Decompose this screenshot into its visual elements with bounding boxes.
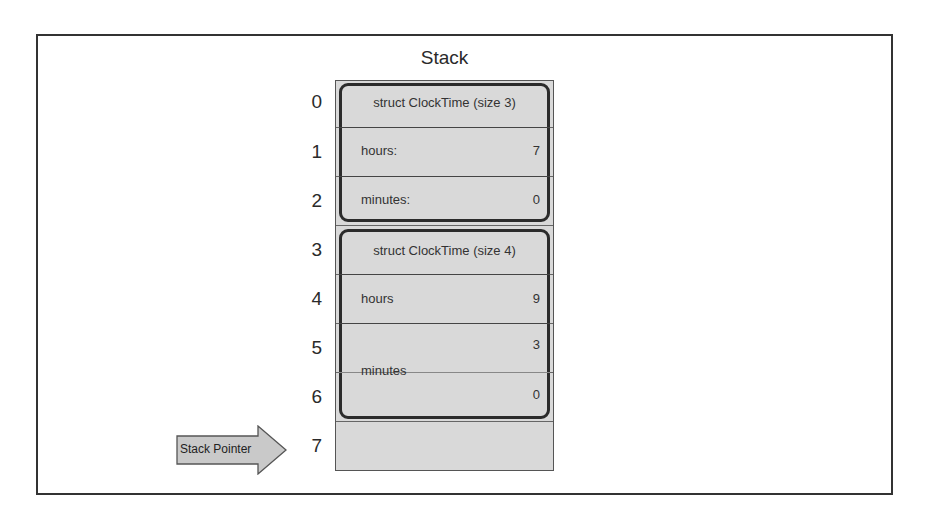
field-value: 0 [533, 192, 540, 207]
field-value-high: 3 [533, 337, 540, 352]
stack-index-4: 4 [300, 288, 322, 310]
struct-1-field-hours: hours: 7 [339, 127, 550, 175]
struct-2-field-hours: hours 9 [339, 274, 550, 322]
stack-index-5: 5 [300, 337, 322, 359]
stack-index-2: 2 [300, 190, 322, 212]
field-label: minutes [361, 363, 407, 378]
stack-index-6: 6 [300, 386, 322, 408]
struct-2-field-minutes: minutes 3 0 [339, 323, 550, 419]
stack-index-7: 7 [300, 435, 322, 457]
field-value-low: 0 [533, 387, 540, 402]
stack-pointer-arrow: Stack Pointer [176, 425, 296, 475]
field-value: 7 [533, 143, 540, 158]
stack-title: Stack [335, 47, 554, 69]
struct-2-header: struct ClockTime (size 4) [339, 243, 550, 258]
stack-cell-7 [336, 422, 553, 470]
field-label: minutes: [361, 192, 410, 207]
field-label: hours [361, 291, 394, 306]
field-label: hours: [361, 143, 397, 158]
stack-index-0: 0 [300, 91, 322, 113]
stack-index-1: 1 [300, 141, 322, 163]
struct-1-header: struct ClockTime (size 3) [339, 95, 550, 110]
struct-1-field-minutes: minutes: 0 [339, 176, 550, 224]
stack-pointer-label: Stack Pointer [180, 442, 251, 456]
field-value: 9 [533, 291, 540, 306]
stack-index-3: 3 [300, 239, 322, 261]
